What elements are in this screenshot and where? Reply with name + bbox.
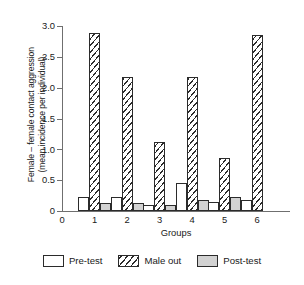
legend-label: Pre-test bbox=[69, 256, 103, 266]
bar-post-test-group-3 bbox=[165, 205, 176, 211]
legend-label: Male out bbox=[144, 256, 181, 266]
x-axis-title: Groups bbox=[62, 228, 290, 237]
bar-male-out-group-1 bbox=[89, 33, 100, 211]
legend-swatch-icon bbox=[197, 255, 218, 267]
plot-area: Female – female contact aggression (mean… bbox=[0, 0, 304, 240]
legend-swatch-icon bbox=[43, 255, 64, 267]
bar-post-test-group-4 bbox=[198, 200, 209, 211]
bar-pre-test-group-4 bbox=[176, 183, 187, 211]
bar-pre-test-group-2 bbox=[111, 197, 122, 211]
bar-post-test-group-1 bbox=[100, 203, 111, 211]
legend-item-post-test[interactable]: Post-test bbox=[197, 255, 261, 267]
bar-male-out-group-5 bbox=[219, 158, 230, 211]
legend-item-male-out[interactable]: Male out bbox=[118, 255, 181, 267]
bar-post-test-group-2 bbox=[133, 203, 144, 211]
bar-male-out-group-4 bbox=[187, 77, 198, 211]
bar-male-out-group-2 bbox=[122, 77, 133, 211]
figure: Female – female contact aggression (mean… bbox=[0, 0, 304, 285]
chart-legend: Pre-testMale outPost-test bbox=[0, 246, 304, 276]
bar-pre-test-group-3 bbox=[143, 205, 154, 211]
bars-layer bbox=[0, 0, 304, 240]
bar-pre-test-group-1 bbox=[78, 197, 89, 211]
legend-swatch-icon bbox=[118, 255, 139, 267]
bar-pre-test-group-5 bbox=[208, 202, 219, 211]
bar-male-out-group-6 bbox=[252, 35, 263, 211]
legend-item-pre-test[interactable]: Pre-test bbox=[43, 255, 103, 267]
bar-pre-test-group-6 bbox=[241, 200, 252, 211]
bar-male-out-group-3 bbox=[154, 142, 165, 211]
legend-label: Post-test bbox=[223, 256, 261, 266]
bar-post-test-group-5 bbox=[230, 197, 241, 211]
